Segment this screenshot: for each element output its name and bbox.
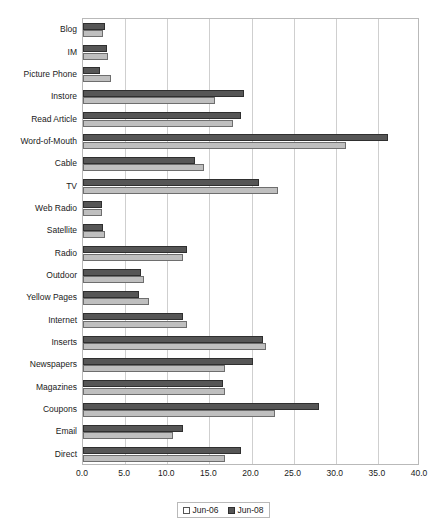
category-label: Direct bbox=[0, 449, 77, 459]
category-label: Radio bbox=[0, 248, 77, 258]
x-tick-label: 15.0 bbox=[188, 468, 228, 478]
bar bbox=[83, 67, 100, 74]
x-tick-label: 10.0 bbox=[146, 468, 186, 478]
bar bbox=[83, 380, 223, 387]
bar bbox=[83, 403, 319, 410]
bar bbox=[83, 343, 266, 350]
bar bbox=[83, 269, 141, 276]
bar-chart: BlogIMPicture PhoneInstoreRead ArticleWo… bbox=[0, 0, 446, 525]
x-tick-label: 5.0 bbox=[104, 468, 144, 478]
category-label: Blog bbox=[0, 24, 77, 34]
bar bbox=[83, 313, 183, 320]
bar-group bbox=[83, 287, 418, 309]
category-label: TV bbox=[0, 181, 77, 191]
bar bbox=[83, 410, 275, 417]
bar bbox=[83, 291, 139, 298]
bar-group bbox=[83, 64, 418, 86]
bar-group bbox=[83, 444, 418, 466]
bar bbox=[83, 455, 225, 462]
bar bbox=[83, 276, 144, 283]
bar bbox=[83, 23, 105, 30]
bar bbox=[83, 164, 204, 171]
bar-group bbox=[83, 377, 418, 399]
bar-group bbox=[83, 19, 418, 41]
bar-group bbox=[83, 332, 418, 354]
bar bbox=[83, 187, 278, 194]
bar-group bbox=[83, 198, 418, 220]
bar-group bbox=[83, 220, 418, 242]
bar bbox=[83, 179, 259, 186]
category-label: Yellow Pages bbox=[0, 292, 77, 302]
chart-legend: Jun-06Jun-08 bbox=[0, 502, 446, 518]
bar bbox=[83, 30, 103, 37]
x-tick-label: 20.0 bbox=[231, 468, 271, 478]
bar bbox=[83, 201, 102, 208]
bar bbox=[83, 45, 107, 52]
bar bbox=[83, 425, 183, 432]
bar bbox=[83, 53, 108, 60]
x-tick-label: 30.0 bbox=[315, 468, 355, 478]
legend-label: Jun-06 bbox=[193, 505, 219, 515]
bar bbox=[83, 358, 253, 365]
category-label: Coupons bbox=[0, 404, 77, 414]
bar-group bbox=[83, 41, 418, 63]
bar bbox=[83, 388, 225, 395]
x-tick-label: 35.0 bbox=[357, 468, 397, 478]
bar bbox=[83, 120, 233, 127]
bar bbox=[83, 298, 149, 305]
bar bbox=[83, 224, 103, 231]
bar-group bbox=[83, 399, 418, 421]
bar-group bbox=[83, 175, 418, 197]
legend-box: Jun-06Jun-08 bbox=[177, 502, 270, 518]
x-tick-label: 0.0 bbox=[62, 468, 102, 478]
bar bbox=[83, 321, 187, 328]
category-label: Inserts bbox=[0, 337, 77, 347]
legend-item[interactable]: Jun-06 bbox=[183, 505, 219, 515]
bar bbox=[83, 209, 102, 216]
bar bbox=[83, 336, 263, 343]
category-label: Outdoor bbox=[0, 270, 77, 280]
bar bbox=[83, 142, 346, 149]
category-label: Email bbox=[0, 426, 77, 436]
category-label: Picture Phone bbox=[0, 69, 77, 79]
x-tick-label: 25.0 bbox=[273, 468, 313, 478]
bar-group bbox=[83, 310, 418, 332]
bar bbox=[83, 432, 173, 439]
bar bbox=[83, 134, 388, 141]
x-axis-tick-labels: 0.05.010.015.020.025.030.035.040.0 bbox=[0, 468, 446, 482]
category-label: Read Article bbox=[0, 114, 77, 124]
bar-rows bbox=[83, 19, 418, 464]
category-label: Web Radio bbox=[0, 203, 77, 213]
category-label: Cable bbox=[0, 158, 77, 168]
category-label: IM bbox=[0, 47, 77, 57]
plot-area bbox=[82, 18, 419, 465]
category-label: Word-of-Mouth bbox=[0, 136, 77, 146]
legend-label: Jun-08 bbox=[238, 505, 264, 515]
bar bbox=[83, 157, 195, 164]
bar-group bbox=[83, 131, 418, 153]
category-label: Internet bbox=[0, 315, 77, 325]
legend-item[interactable]: Jun-08 bbox=[228, 505, 264, 515]
bar bbox=[83, 254, 183, 261]
bar bbox=[83, 97, 215, 104]
bar bbox=[83, 75, 111, 82]
bar bbox=[83, 365, 225, 372]
x-tick-label: 40.0 bbox=[399, 468, 439, 478]
bar-group bbox=[83, 153, 418, 175]
category-axis-labels: BlogIMPicture PhoneInstoreRead ArticleWo… bbox=[0, 18, 77, 465]
bar bbox=[83, 231, 105, 238]
legend-swatch-icon bbox=[183, 507, 190, 514]
bar-group bbox=[83, 86, 418, 108]
bar-group bbox=[83, 243, 418, 265]
bar bbox=[83, 246, 187, 253]
category-label: Instore bbox=[0, 91, 77, 101]
category-label: Magazines bbox=[0, 382, 77, 392]
bar bbox=[83, 90, 244, 97]
bar bbox=[83, 112, 241, 119]
bar-group bbox=[83, 265, 418, 287]
bar bbox=[83, 447, 241, 454]
category-label: Newspapers bbox=[0, 359, 77, 369]
legend-swatch-icon bbox=[228, 507, 235, 514]
bar-group bbox=[83, 421, 418, 443]
bar-group bbox=[83, 354, 418, 376]
